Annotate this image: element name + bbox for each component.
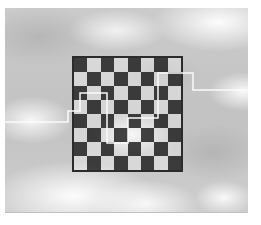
board-cell xyxy=(101,142,114,156)
board-cell xyxy=(114,128,127,142)
board-cell xyxy=(141,156,154,170)
board-cell xyxy=(128,86,141,100)
board-cell xyxy=(101,86,114,100)
sky-photo xyxy=(5,8,248,213)
board-cell xyxy=(141,86,154,100)
board-cell xyxy=(114,58,127,72)
board-cell xyxy=(74,114,87,128)
board-cell xyxy=(87,58,100,72)
checkerboard xyxy=(72,56,183,172)
board-cell xyxy=(168,156,181,170)
board-cell xyxy=(74,72,87,86)
board-cell xyxy=(114,100,127,114)
board-cell xyxy=(101,114,114,128)
board-cell xyxy=(87,156,100,170)
board-cell xyxy=(154,86,167,100)
board-cell xyxy=(154,142,167,156)
board-cell xyxy=(74,86,87,100)
board-cell xyxy=(128,72,141,86)
board-cell xyxy=(141,128,154,142)
board-cell xyxy=(168,142,181,156)
board-cell xyxy=(87,86,100,100)
board-cell xyxy=(168,86,181,100)
board-cell xyxy=(128,128,141,142)
board-cell xyxy=(114,72,127,86)
board-cell xyxy=(141,72,154,86)
board-cell xyxy=(154,100,167,114)
board-cell xyxy=(154,58,167,72)
board-cell xyxy=(114,142,127,156)
board-cell xyxy=(128,114,141,128)
board-cell xyxy=(101,100,114,114)
board-cell xyxy=(74,100,87,114)
board-cell xyxy=(168,128,181,142)
board-cell xyxy=(101,128,114,142)
board-cell xyxy=(101,156,114,170)
board-cell xyxy=(87,128,100,142)
board-cell xyxy=(114,86,127,100)
board-cell xyxy=(101,58,114,72)
board-cell xyxy=(128,100,141,114)
board-cell xyxy=(154,128,167,142)
board-cell xyxy=(74,142,87,156)
board-cell xyxy=(141,100,154,114)
board-cell xyxy=(154,156,167,170)
board-cell xyxy=(141,142,154,156)
board-cell xyxy=(154,114,167,128)
board-cell xyxy=(168,72,181,86)
board-cell xyxy=(168,58,181,72)
board-cell xyxy=(87,142,100,156)
board-cell xyxy=(114,156,127,170)
board-cell xyxy=(87,72,100,86)
board-cell xyxy=(168,114,181,128)
board-cell xyxy=(168,100,181,114)
board-cell xyxy=(141,58,154,72)
board-cell xyxy=(114,114,127,128)
board-cell xyxy=(74,58,87,72)
figure-canvas xyxy=(0,0,261,225)
board-cell xyxy=(128,58,141,72)
board-cell xyxy=(74,128,87,142)
board-cell xyxy=(128,156,141,170)
board-cell xyxy=(141,114,154,128)
board-cell xyxy=(128,142,141,156)
board-cell xyxy=(101,72,114,86)
board-cell xyxy=(74,156,87,170)
board-cell xyxy=(87,114,100,128)
board-cell xyxy=(154,72,167,86)
board-cell xyxy=(87,100,100,114)
